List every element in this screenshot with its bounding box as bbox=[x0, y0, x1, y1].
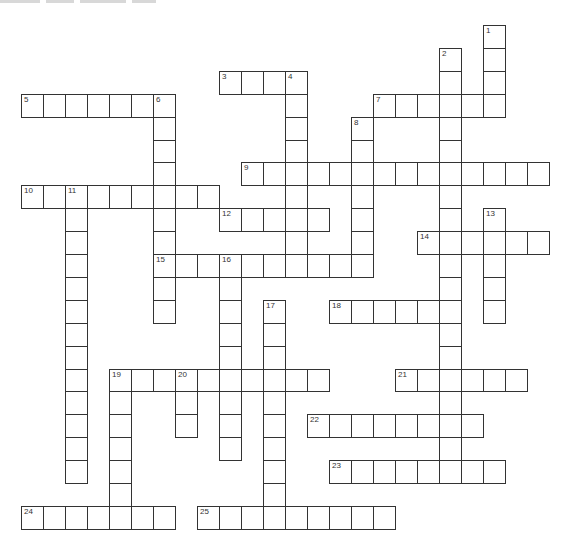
crossword-cell[interactable] bbox=[483, 71, 506, 95]
crossword-cell[interactable] bbox=[483, 369, 506, 392]
crossword-cell[interactable] bbox=[197, 369, 220, 392]
crossword-cell[interactable] bbox=[241, 369, 264, 392]
crossword-cell[interactable] bbox=[65, 231, 88, 255]
crossword-cell[interactable] bbox=[153, 300, 176, 324]
crossword-cell[interactable] bbox=[241, 506, 264, 530]
crossword-cell[interactable] bbox=[285, 208, 308, 232]
crossword-cell[interactable] bbox=[439, 414, 462, 438]
crossword-cell[interactable]: 15 bbox=[153, 254, 176, 278]
crossword-cell[interactable] bbox=[439, 391, 462, 415]
crossword-cell[interactable] bbox=[351, 162, 374, 186]
crossword-cell[interactable] bbox=[461, 414, 484, 438]
crossword-cell[interactable] bbox=[307, 162, 330, 186]
crossword-cell[interactable] bbox=[417, 300, 440, 324]
crossword-cell[interactable]: 6 bbox=[153, 94, 176, 118]
crossword-cell[interactable] bbox=[109, 460, 132, 484]
crossword-cell[interactable] bbox=[373, 300, 396, 324]
crossword-cell[interactable] bbox=[153, 231, 176, 255]
crossword-cell[interactable] bbox=[87, 506, 110, 530]
crossword-cell[interactable]: 17 bbox=[263, 300, 286, 324]
crossword-cell[interactable] bbox=[219, 437, 242, 461]
crossword-cell[interactable] bbox=[263, 254, 286, 278]
crossword-cell[interactable] bbox=[263, 414, 286, 438]
crossword-cell[interactable] bbox=[351, 506, 374, 530]
crossword-cell[interactable] bbox=[219, 346, 242, 370]
crossword-cell[interactable] bbox=[219, 300, 242, 324]
crossword-cell[interactable] bbox=[153, 208, 176, 232]
crossword-cell[interactable] bbox=[43, 94, 66, 118]
crossword-cell[interactable] bbox=[439, 323, 462, 347]
crossword-cell[interactable] bbox=[263, 369, 286, 392]
crossword-cell[interactable] bbox=[439, 208, 462, 232]
crossword-cell[interactable]: 25 bbox=[197, 506, 220, 530]
crossword-cell[interactable]: 13 bbox=[483, 208, 506, 232]
crossword-cell[interactable] bbox=[131, 369, 154, 392]
crossword-cell[interactable] bbox=[329, 162, 352, 186]
crossword-cell[interactable] bbox=[219, 369, 242, 392]
crossword-cell[interactable] bbox=[483, 48, 506, 72]
crossword-cell[interactable] bbox=[285, 231, 308, 255]
crossword-cell[interactable] bbox=[219, 414, 242, 438]
crossword-cell[interactable] bbox=[373, 506, 396, 530]
crossword-cell[interactable] bbox=[263, 71, 286, 95]
crossword-cell[interactable] bbox=[65, 254, 88, 278]
crossword-cell[interactable] bbox=[131, 506, 154, 530]
crossword-cell[interactable] bbox=[439, 277, 462, 301]
crossword-cell[interactable] bbox=[153, 506, 176, 530]
crossword-cell[interactable] bbox=[241, 254, 264, 278]
crossword-cell[interactable] bbox=[219, 277, 242, 301]
crossword-cell[interactable] bbox=[461, 460, 484, 484]
crossword-cell[interactable]: 14 bbox=[417, 231, 440, 255]
crossword-cell[interactable] bbox=[505, 369, 528, 392]
crossword-cell[interactable] bbox=[219, 323, 242, 347]
crossword-cell[interactable] bbox=[439, 71, 462, 95]
crossword-cell[interactable] bbox=[373, 414, 396, 438]
crossword-cell[interactable] bbox=[153, 277, 176, 301]
crossword-cell[interactable] bbox=[483, 231, 506, 255]
crossword-cell[interactable] bbox=[175, 185, 198, 209]
crossword-cell[interactable] bbox=[395, 300, 418, 324]
crossword-cell[interactable] bbox=[439, 185, 462, 209]
crossword-cell[interactable] bbox=[241, 71, 264, 95]
crossword-cell[interactable] bbox=[175, 414, 198, 438]
crossword-cell[interactable]: 24 bbox=[21, 506, 44, 530]
crossword-cell[interactable] bbox=[153, 140, 176, 163]
crossword-cell[interactable] bbox=[439, 140, 462, 163]
crossword-cell[interactable] bbox=[109, 414, 132, 438]
crossword-cell[interactable] bbox=[285, 185, 308, 209]
crossword-cell[interactable] bbox=[461, 162, 484, 186]
crossword-cell[interactable] bbox=[285, 94, 308, 118]
crossword-cell[interactable] bbox=[263, 208, 286, 232]
crossword-cell[interactable]: 4 bbox=[285, 71, 308, 95]
crossword-cell[interactable] bbox=[109, 185, 132, 209]
crossword-cell[interactable] bbox=[263, 437, 286, 461]
crossword-cell[interactable] bbox=[395, 460, 418, 484]
crossword-cell[interactable] bbox=[241, 208, 264, 232]
crossword-cell[interactable] bbox=[263, 346, 286, 370]
crossword-cell[interactable] bbox=[263, 162, 286, 186]
crossword-cell[interactable] bbox=[109, 391, 132, 415]
crossword-cell[interactable] bbox=[329, 414, 352, 438]
crossword-cell[interactable] bbox=[43, 185, 66, 209]
crossword-cell[interactable] bbox=[285, 140, 308, 163]
crossword-cell[interactable] bbox=[65, 323, 88, 347]
crossword-cell[interactable] bbox=[439, 369, 462, 392]
crossword-cell[interactable] bbox=[153, 162, 176, 186]
crossword-cell[interactable] bbox=[351, 414, 374, 438]
crossword-cell[interactable] bbox=[351, 254, 374, 278]
crossword-cell[interactable] bbox=[483, 300, 506, 324]
crossword-cell[interactable] bbox=[461, 94, 484, 118]
crossword-cell[interactable]: 7 bbox=[373, 94, 396, 118]
crossword-cell[interactable] bbox=[417, 162, 440, 186]
crossword-cell[interactable] bbox=[439, 254, 462, 278]
crossword-cell[interactable]: 21 bbox=[395, 369, 418, 392]
crossword-cell[interactable] bbox=[175, 391, 198, 415]
crossword-cell[interactable] bbox=[65, 369, 88, 392]
crossword-cell[interactable] bbox=[219, 506, 242, 530]
crossword-cell[interactable] bbox=[483, 94, 506, 118]
crossword-cell[interactable] bbox=[527, 162, 550, 186]
crossword-cell[interactable] bbox=[439, 300, 462, 324]
crossword-cell[interactable] bbox=[65, 460, 88, 484]
crossword-cell[interactable] bbox=[351, 460, 374, 484]
crossword-cell[interactable] bbox=[109, 94, 132, 118]
